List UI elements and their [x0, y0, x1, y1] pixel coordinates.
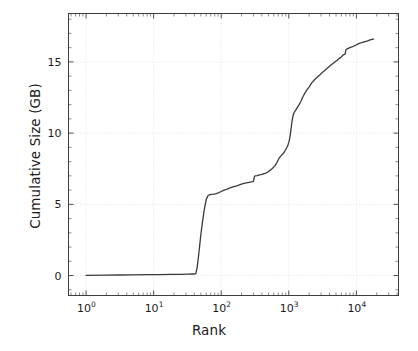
x-axis-label: Rank [0, 322, 418, 338]
svg-text:10: 10 [48, 127, 62, 140]
y-axis-label: Cumulative Size (GB) [27, 31, 43, 281]
svg-text:104: 104 [347, 300, 366, 315]
major-tick-marks [69, 19, 399, 290]
x-axis-tick-labels: 100101102103104 [77, 300, 366, 315]
minor-tick-marks [71, 14, 397, 296]
svg-text:101: 101 [145, 300, 164, 315]
chart-figure: 100101102103104 051015 Rank Cumulative S… [0, 0, 418, 351]
svg-text:0: 0 [55, 270, 62, 283]
svg-text:103: 103 [280, 300, 299, 315]
data-line-cumulative-size [86, 39, 374, 275]
plot-border [69, 14, 399, 296]
chart-canvas: 100101102103104 051015 [0, 0, 418, 351]
svg-text:102: 102 [212, 300, 231, 315]
grid-lines [69, 14, 399, 296]
svg-text:5: 5 [55, 198, 62, 211]
svg-text:15: 15 [48, 56, 62, 69]
y-axis-tick-labels: 051015 [48, 56, 62, 283]
svg-text:100: 100 [77, 300, 96, 315]
